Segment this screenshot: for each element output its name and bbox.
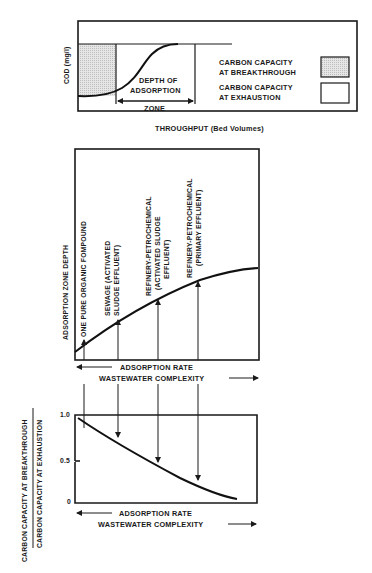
zone-label-line2: ADSORPTION xyxy=(130,86,181,95)
legend-exhaustion-line1: CARBON CAPACITY xyxy=(219,83,293,92)
type-label-refinery-primary-line2: (PRIMARY EFFLUENT) xyxy=(195,190,202,266)
type-label-sewage-line2: SLUDGE EFFLUENT) xyxy=(113,245,120,316)
breakthrough-panel xyxy=(78,21,357,111)
legend-swatch-exhaustion xyxy=(321,83,349,103)
type-label-refinery-as-line1: REFINERY-PETROCHEMICAL xyxy=(145,196,152,296)
legend-breakthrough-line2: AT BREAKTHROUGH xyxy=(219,68,296,77)
bottom-complexity-label: WASTEWATER COMPLEXITY xyxy=(98,520,203,529)
type-label-refinery-as-line2: (ACTIVATED SLUDGE xyxy=(154,216,161,290)
type-label-refinery-as-line3: EFFLUENT) xyxy=(163,239,170,279)
y-tick-0: 0 xyxy=(67,498,71,505)
ratio-numerator-label: CARBON CAPACITY AT BREAKTHROUGH xyxy=(21,419,28,562)
diagram-graphics xyxy=(0,0,372,573)
zone-label-line3: ZONE xyxy=(144,104,165,113)
legend-breakthrough-line1: CARBON CAPACITY xyxy=(219,58,293,67)
type-label-sewage-line1: SEWAGE (ACTIVATED xyxy=(104,241,111,316)
zone-depth-axis-label: ADSORPTION ZONE DEPTH xyxy=(62,245,69,340)
legend-exhaustion-line2: AT EXHAUSTION xyxy=(219,93,281,102)
type-label-refinery-primary-line1: REFINERY-PETROCHEMICAL xyxy=(186,178,193,278)
y-tick-0-5: 0.5 xyxy=(60,457,70,464)
legend-swatch-breakthrough xyxy=(321,57,349,77)
y-tick-1-0: 1.0 xyxy=(60,411,70,418)
ratio-denominator-label: CARBON CAPACITY AT EXHAUSTION xyxy=(36,420,43,548)
throughput-axis-label: THROUGHPUT (Bed Volumes) xyxy=(155,124,264,133)
middle-complexity-label: WASTEWATER COMPLEXITY xyxy=(99,374,204,383)
bottom-adsorption-rate-label: ADSORPTION RATE xyxy=(119,509,192,518)
cod-axis-label: COD (mg/l) xyxy=(63,47,70,85)
zone-label-line1: DEPTH OF xyxy=(139,76,178,85)
type-label-pure-organic: ONE PURE ORGANIC FOMPOUND xyxy=(80,221,87,337)
middle-adsorption-rate-label: ADSORPTION RATE xyxy=(120,363,193,372)
